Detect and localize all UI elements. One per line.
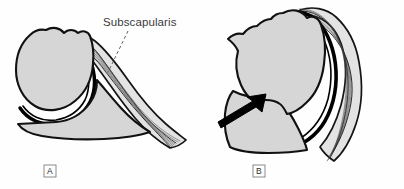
anatomy-figure: A Subscapularis B xyxy=(0,0,404,189)
panel-letter-b: B xyxy=(256,166,262,176)
humeral-head-a xyxy=(16,28,93,110)
subscapularis-label: Subscapularis xyxy=(103,16,177,28)
panel-letter-a: A xyxy=(47,166,53,176)
panel-b: B xyxy=(218,8,361,177)
panel-a: A xyxy=(16,28,186,177)
